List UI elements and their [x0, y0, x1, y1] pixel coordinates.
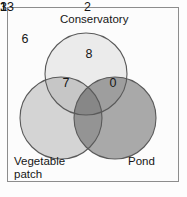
set-label-pond: Pond	[128, 155, 155, 168]
set-label-vegetable-patch: Vegetablepatch	[14, 155, 65, 181]
count-conservatory-pond: 0	[106, 76, 120, 90]
set-label-vegetable-patch-line2: patch	[14, 168, 42, 180]
set-label-conservatory: Conservatory	[60, 13, 128, 26]
venn-diagram-figure: Conservatory Vegetablepatch Pond 6 8 7 0…	[0, 0, 187, 197]
count-all-three: 2	[84, 0, 91, 14]
count-pond-only: 1	[0, 0, 7, 14]
count-conservatory-vegetable: 7	[59, 76, 73, 90]
count-outside: 6	[18, 32, 32, 46]
set-label-vegetable-patch-line1: Vegetable	[14, 155, 65, 167]
count-conservatory-only: 8	[82, 47, 96, 61]
